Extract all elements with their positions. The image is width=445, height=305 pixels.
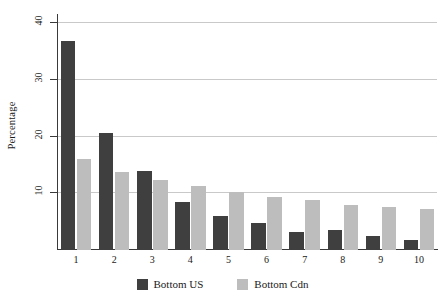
bar-bottom-us-8 <box>328 230 343 250</box>
bar-bottom-us-7 <box>289 232 304 250</box>
bar-bottom-us-5 <box>213 216 228 250</box>
y-tick-label: 30 <box>30 72 46 83</box>
legend-label: Bottom US <box>154 278 204 290</box>
x-tick-label: 5 <box>213 254 243 265</box>
y-tick-label: 40 <box>30 15 46 26</box>
x-tick-label: 2 <box>99 254 129 265</box>
y-tick-label: 20 <box>30 129 46 140</box>
bar-bottom-cdn-8 <box>344 205 359 250</box>
y-axis-title-label: Percentage <box>6 101 17 149</box>
y-axis-title: Percentage <box>0 0 22 250</box>
x-tick-label: 9 <box>366 254 396 265</box>
x-tick-label: 4 <box>175 254 205 265</box>
bar-bottom-us-3 <box>137 171 152 250</box>
bar-bottom-us-4 <box>175 202 190 250</box>
legend-label: Bottom Cdn <box>254 278 308 290</box>
y-tick-label-text: 10 <box>33 186 44 196</box>
bar-bottom-us-9 <box>366 236 381 250</box>
y-tick-label-text: 20 <box>33 129 44 139</box>
bar-chart: Percentage 10203040 12345678910 Bottom U… <box>0 0 445 305</box>
y-tick-label: 10 <box>30 185 46 196</box>
bar-bottom-cdn-10 <box>420 209 435 250</box>
legend-swatch-icon <box>237 279 248 290</box>
bar-bottom-cdn-3 <box>153 180 168 250</box>
bar-bottom-us-6 <box>251 223 266 250</box>
y-tick-label-text: 40 <box>33 16 44 26</box>
x-tick-label: 1 <box>61 254 91 265</box>
bar-bottom-cdn-9 <box>382 207 397 250</box>
bar-bottom-us-10 <box>404 240 419 250</box>
x-tick-label: 8 <box>328 254 358 265</box>
legend-entry: Bottom US <box>137 278 204 290</box>
bar-bottom-cdn-2 <box>115 172 130 250</box>
x-tick-label: 7 <box>290 254 320 265</box>
bars-layer <box>57 0 438 250</box>
bar-bottom-cdn-1 <box>77 159 92 250</box>
chart-legend: Bottom USBottom Cdn <box>0 278 445 290</box>
x-tick-label: 6 <box>252 254 282 265</box>
y-tick-label-text: 30 <box>33 72 44 82</box>
bar-bottom-cdn-6 <box>267 197 282 250</box>
x-tick-label: 3 <box>137 254 167 265</box>
bar-bottom-cdn-7 <box>305 200 320 250</box>
legend-entry: Bottom Cdn <box>237 278 308 290</box>
legend-swatch-icon <box>137 279 148 290</box>
x-tick-label: 10 <box>404 254 434 265</box>
bar-bottom-us-2 <box>99 133 114 250</box>
bar-bottom-cdn-5 <box>229 192 244 250</box>
bar-bottom-us-1 <box>61 41 76 250</box>
bar-bottom-cdn-4 <box>191 186 206 250</box>
